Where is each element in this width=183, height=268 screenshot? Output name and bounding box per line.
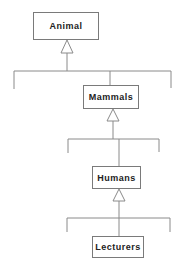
class-box-humans: Humans <box>92 166 141 189</box>
inheritance-triangle-icon <box>113 189 125 201</box>
connector-lines <box>0 0 183 268</box>
class-label: Humans <box>97 173 136 183</box>
inheritance-triangle-icon <box>61 40 73 53</box>
class-label: Animal <box>49 21 82 31</box>
class-box-animal: Animal <box>33 12 99 40</box>
class-box-mammals: Mammals <box>83 85 139 109</box>
class-label: Lecturers <box>95 242 141 252</box>
inheritance-triangle-icon <box>107 109 119 121</box>
class-box-lecturers: Lecturers <box>92 236 144 258</box>
class-label: Mammals <box>89 92 134 102</box>
